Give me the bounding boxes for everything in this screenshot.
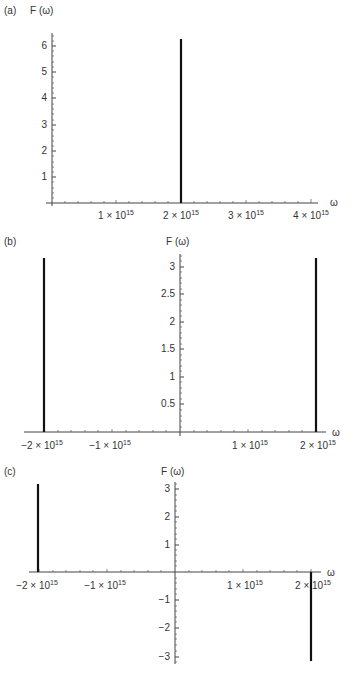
panel-label: (a): [4, 5, 16, 16]
y-tick-label: 2.5: [161, 288, 175, 299]
y-tick-label: 3: [169, 261, 175, 272]
y-tick-label: 4: [41, 92, 47, 103]
y-tick-label: 2: [164, 511, 170, 522]
x-axis-label: ω: [330, 197, 338, 208]
svg-text:1 × 1015: 1 × 1015: [227, 579, 263, 591]
y-tick-label: 1: [169, 371, 175, 382]
y-axis-label: F (ω): [166, 236, 189, 247]
x-tick-label: 4 × 1015: [293, 209, 329, 221]
y-ticks: [52, 36, 56, 198]
y-axis-label: F (ω): [161, 466, 184, 477]
svg-text:−1 × 1015: −1 × 1015: [89, 439, 131, 451]
x-tick-label: 1 × 1015: [232, 439, 268, 451]
svg-text:4 × 1015: 4 × 1015: [293, 209, 329, 221]
y-tick-label: 2: [169, 316, 175, 327]
x-tick-label: 2 × 1015: [163, 209, 199, 221]
panel-c: (c) F (ω) ω −3 −2 −1 1 2 3 −2 × 1015 −1 …: [4, 466, 335, 664]
y-tick-label: 1: [164, 539, 170, 550]
y-tick-label: 1: [41, 171, 47, 182]
panel-label: (b): [4, 236, 16, 247]
x-tick-label: 2 × 1015: [295, 579, 331, 591]
svg-text:1 × 1015: 1 × 1015: [232, 439, 268, 451]
y-tick-label: 3: [41, 119, 47, 130]
panel-label: (c): [4, 466, 16, 477]
svg-text:−2 × 1015: −2 × 1015: [21, 439, 63, 451]
svg-text:3 × 1015: 3 × 1015: [228, 209, 264, 221]
panel-b: (b) F (ω) ω 0.5 1 1.5 2 2.5 3 −2 × 1015 …: [4, 236, 340, 451]
y-tick-label: −3: [159, 651, 171, 662]
y-tick-label: 5: [41, 66, 47, 77]
panel-a: (a) F (ω) ω 1 2 3 4 5 6 1 × 1015: [4, 5, 338, 221]
x-axis-label: ω: [332, 427, 340, 438]
x-tick-label: 3 × 1015: [228, 209, 264, 221]
svg-text:1 × 1015: 1 × 1015: [98, 209, 134, 221]
y-tick-label: 2: [41, 145, 47, 156]
x-axis-label: ω: [327, 567, 335, 578]
y-tick-label: 1.5: [161, 343, 175, 354]
y-tick-label: −2: [159, 622, 171, 633]
y-tick-label: 0.5: [161, 398, 175, 409]
x-tick-label: −1 × 1015: [89, 439, 131, 451]
y-ticks: [180, 256, 184, 427]
y-ticks: [175, 484, 179, 662]
x-tick-label: 1 × 1015: [98, 209, 134, 221]
x-tick-label: −1 × 1015: [84, 579, 126, 591]
y-tick-label: 3: [164, 483, 170, 494]
x-ticks: [65, 199, 311, 203]
svg-text:2 × 1015: 2 × 1015: [163, 209, 199, 221]
x-tick-label: 1 × 1015: [227, 579, 263, 591]
x-tick-label: 2 × 1015: [300, 439, 336, 451]
svg-text:2 × 1015: 2 × 1015: [295, 579, 331, 591]
figure: (a) F (ω) ω 1 2 3 4 5 6 1 × 1015: [0, 0, 353, 674]
svg-text:−2 × 1015: −2 × 1015: [16, 579, 58, 591]
svg-text:2 × 1015: 2 × 1015: [300, 439, 336, 451]
x-tick-label: −2 × 1015: [21, 439, 63, 451]
svg-text:−1 × 1015: −1 × 1015: [84, 579, 126, 591]
y-tick-label: 6: [41, 40, 47, 51]
y-axis-label: F (ω): [30, 5, 53, 16]
y-tick-label: −1: [159, 594, 171, 605]
x-tick-label: −2 × 1015: [16, 579, 58, 591]
